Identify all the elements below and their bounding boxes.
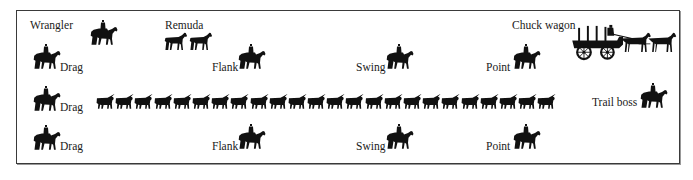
longhorn-steer-icon — [288, 93, 307, 111]
horse-and-rider-icon — [511, 123, 541, 153]
label-point-top: Point — [486, 61, 510, 73]
label-remuda: Remuda — [165, 19, 203, 31]
horse-and-rider-icon — [88, 19, 118, 49]
longhorn-steer-icon — [345, 93, 364, 111]
horse-and-rider-icon — [31, 43, 61, 73]
horse-and-rider-icon — [384, 123, 414, 153]
label-trail-boss: Trail boss — [592, 96, 637, 108]
chuck-wagon-icon — [570, 22, 678, 63]
horse-icon — [163, 31, 189, 53]
longhorn-steer-icon — [192, 93, 211, 111]
label-drag-top: Drag — [60, 61, 83, 73]
horse-and-rider-icon — [31, 124, 61, 154]
label-drag-middle: Drag — [60, 101, 83, 113]
longhorn-steer-icon — [96, 93, 115, 111]
horse-and-rider-icon — [511, 43, 541, 73]
horse-and-rider-icon — [236, 43, 266, 73]
label-swing-bottom: Swing — [356, 140, 385, 152]
horse-and-rider-icon — [236, 123, 266, 153]
horse-icon — [188, 31, 214, 53]
label-swing-top: Swing — [356, 61, 385, 73]
longhorn-steer-icon — [154, 93, 173, 111]
longhorn-steer-icon — [384, 93, 403, 111]
longhorn-steer-icon — [307, 93, 326, 111]
longhorn-steer-icon — [403, 93, 422, 111]
longhorn-steer-icon — [422, 93, 441, 111]
label-chuck-wagon: Chuck wagon — [512, 19, 576, 31]
longhorn-steer-icon — [115, 93, 134, 111]
label-wrangler: Wrangler — [30, 19, 73, 31]
longhorn-steer-icon — [230, 93, 249, 111]
longhorn-steer-icon — [537, 93, 556, 111]
longhorn-steer-icon — [134, 93, 153, 111]
longhorn-steer-icon — [211, 93, 230, 111]
label-flank-bottom: Flank — [212, 140, 238, 152]
longhorn-steer-icon — [250, 93, 269, 111]
longhorn-steer-icon — [173, 93, 192, 111]
longhorn-steer-icon — [499, 93, 518, 111]
horse-and-rider-icon — [384, 43, 414, 73]
cattle-herd — [96, 93, 557, 111]
label-drag-bottom: Drag — [60, 140, 83, 152]
longhorn-steer-icon — [326, 93, 345, 111]
horse-and-rider-icon — [31, 85, 61, 115]
horse-and-rider-icon — [638, 82, 668, 112]
longhorn-steer-icon — [365, 93, 384, 111]
longhorn-steer-icon — [480, 93, 499, 111]
longhorn-steer-icon — [441, 93, 460, 111]
longhorn-steer-icon — [461, 93, 480, 111]
label-flank-top: Flank — [212, 61, 238, 73]
longhorn-steer-icon — [518, 93, 537, 111]
label-point-bottom: Point — [486, 140, 510, 152]
longhorn-steer-icon — [269, 93, 288, 111]
